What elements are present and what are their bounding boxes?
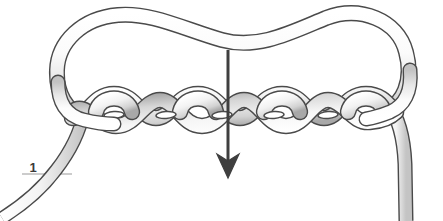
step-label-text: 1 xyxy=(29,160,36,175)
left-working-end xyxy=(2,112,84,218)
knot-diagram-root: 1 xyxy=(0,0,443,221)
knot-diagram-svg: 1 xyxy=(0,0,443,221)
